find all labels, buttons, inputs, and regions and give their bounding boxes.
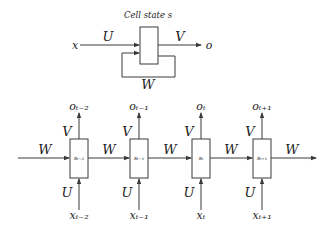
unfolded-rnn: W W W W W sₜ₋₂ U V xₜ₋₂ oₜ₋₂ sₜ₋₁ U V xₜ… [18, 100, 316, 222]
weight-w-label: W [141, 77, 156, 92]
v-label: V [245, 124, 256, 139]
time-step-t: sₜ U V xₜ oₜ [184, 100, 210, 222]
state-label: sₜ₋₁ [134, 154, 144, 161]
state-label: sₜ₊₁ [257, 154, 267, 161]
w-label-4: W [285, 142, 300, 157]
output-o-label: o [206, 39, 213, 52]
time-step-t-minus-1: sₜ₋₁ U V xₜ₋₁ oₜ₋₁ [122, 100, 149, 222]
output-label: oₜ₊₁ [252, 100, 272, 113]
weight-v-label: V [175, 29, 186, 44]
output-label: oₜ₋₂ [69, 100, 89, 113]
v-label: V [62, 124, 73, 139]
rnn-diagram: Cell state s x U V o W W W W W W sₜ₋₂ U … [0, 0, 330, 226]
input-x-label: x [72, 39, 79, 52]
weight-u-label: U [103, 29, 115, 44]
u-label: U [184, 185, 196, 200]
state-label: sₜ [199, 154, 204, 161]
u-label: U [122, 185, 134, 200]
u-label: U [245, 185, 257, 200]
input-label: xₜ₋₁ [129, 209, 148, 222]
time-step-t-plus-1: sₜ₊₁ U V xₜ₊₁ oₜ₊₁ [245, 100, 272, 222]
cell-state-title: Cell state s [124, 10, 173, 20]
v-label: V [122, 124, 133, 139]
folded-rnn: Cell state s x U V o W [72, 10, 213, 92]
v-label: V [184, 124, 195, 139]
cell-box [140, 27, 158, 64]
w-label-2: W [163, 142, 178, 157]
time-step-t-minus-2: sₜ₋₂ U V xₜ₋₂ oₜ₋₂ [62, 100, 89, 222]
w-label-3: W [224, 142, 239, 157]
u-label: U [62, 185, 74, 200]
w-label-1: W [102, 142, 117, 157]
output-label: oₜ₋₁ [129, 100, 149, 113]
input-label: xₜ [197, 209, 206, 222]
state-label: sₜ₋₂ [74, 154, 85, 161]
input-label: xₜ₋₂ [69, 209, 88, 222]
output-label: oₜ [196, 100, 206, 113]
input-label: xₜ₊₁ [252, 209, 271, 222]
w-label-0: W [38, 142, 53, 157]
